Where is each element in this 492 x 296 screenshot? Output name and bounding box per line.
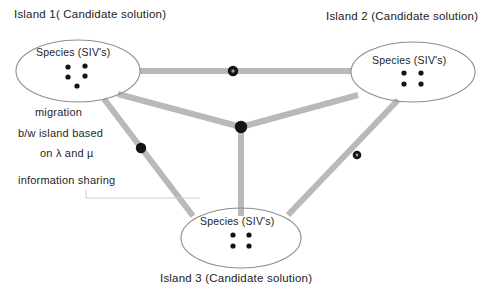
island-1-title: Island 1( Candidate solution) <box>14 8 166 21</box>
island-2-species-dots <box>401 70 423 86</box>
species-dot <box>418 81 423 86</box>
species-dot <box>82 63 87 68</box>
edge-island2-junction <box>241 95 358 127</box>
center-junction-node[interactable] <box>235 121 247 133</box>
island-3-title: Island 3 (Candidate solution) <box>160 272 312 285</box>
island-1-species-dots <box>65 63 87 88</box>
edge-group <box>104 71 398 216</box>
island-3-species-dots <box>230 232 251 248</box>
annotation-on-lambda-and-mu: on λ and µ <box>40 147 94 159</box>
species-dot <box>418 70 423 75</box>
species-dot <box>74 83 79 88</box>
information-sharing-leader-line <box>86 190 200 198</box>
species-dot <box>82 73 87 78</box>
island-2-title: Island 2 (Candidate solution) <box>326 10 478 23</box>
species-dot <box>230 243 235 248</box>
migration-node-island1-island3[interactable] <box>136 143 146 153</box>
species-dot <box>401 81 406 86</box>
species-dot <box>246 232 251 237</box>
species-dot <box>230 232 235 237</box>
species-dot <box>65 74 70 79</box>
species-dot <box>401 70 406 75</box>
species-dot <box>246 243 251 248</box>
island-1-species-label: Species (SIV's) <box>36 47 110 59</box>
island-2-ellipse[interactable] <box>351 42 475 102</box>
island-3-species-label: Species (SIV's) <box>200 216 274 228</box>
diagram-canvas: Island 1( Candidate solution) Island 2 (… <box>0 0 492 296</box>
annotation-migration: migration <box>35 106 82 118</box>
annotation-bw-island-based: b/w island based <box>18 127 103 139</box>
annotation-information-sharing: information sharing <box>18 174 115 186</box>
migration-node-island2-island3-inner <box>356 154 359 157</box>
species-dot <box>65 64 70 69</box>
migration-node-island1-island2-inner <box>231 69 234 72</box>
migration-node-group <box>136 66 362 160</box>
edge-island1-junction <box>118 94 241 127</box>
edge-island2-island3 <box>288 100 398 215</box>
island-2-species-label: Species (SIV's) <box>372 55 446 67</box>
